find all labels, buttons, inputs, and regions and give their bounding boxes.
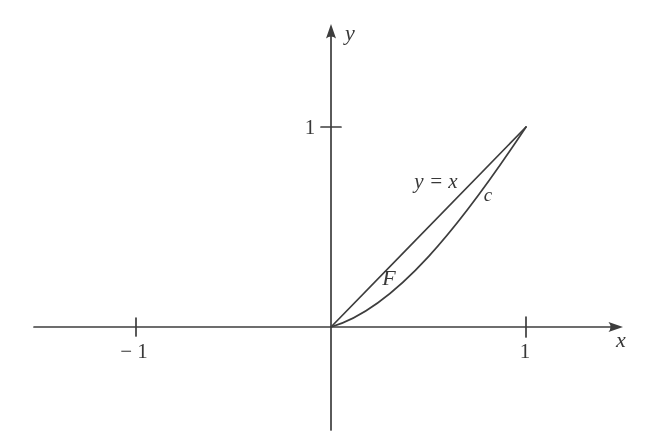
- line-y-equals-x: [331, 127, 526, 327]
- y-axis-label: y: [343, 20, 355, 45]
- x-tick-label-minus-1: − 1: [120, 339, 148, 363]
- y-axis-arrowhead-icon: [326, 24, 336, 39]
- curve-label: c: [484, 184, 493, 205]
- line-label: y = x: [412, 169, 458, 193]
- x-tick-label-1: 1: [520, 339, 531, 363]
- figure-canvas: y x 1 − 1 1 y = x c F: [0, 0, 656, 441]
- math-figure: y x 1 − 1 1 y = x c F: [0, 0, 656, 441]
- region-label: F: [381, 265, 396, 290]
- x-axis-label: x: [615, 327, 626, 352]
- y-tick-label-1: 1: [305, 115, 316, 139]
